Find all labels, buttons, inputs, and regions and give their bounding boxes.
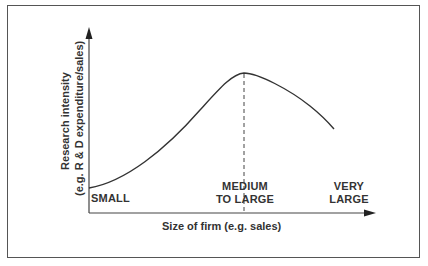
x-axis-label: Size of firm (e.g. sales) (162, 220, 281, 232)
category-very-line1: VERY (325, 180, 373, 193)
category-very-large: VERY LARGE (325, 180, 373, 206)
category-medium-line2: TO LARGE (214, 193, 276, 206)
research-intensity-curve (89, 73, 334, 188)
category-medium-line1: MEDIUM (214, 180, 276, 193)
y-axis-arrow-icon (86, 27, 93, 39)
category-medium-to-large: MEDIUM TO LARGE (214, 180, 276, 206)
x-axis-arrow-icon (364, 210, 376, 217)
y-axis-label-line2: (e.g. R & D expenditure/sales) (72, 46, 86, 196)
y-axis-label-line1: Research intensity (58, 46, 72, 196)
y-axis-label: Research intensity (e.g. R & D expenditu… (58, 46, 86, 196)
category-very-line2: LARGE (325, 193, 373, 206)
category-small: SMALL (91, 192, 130, 205)
